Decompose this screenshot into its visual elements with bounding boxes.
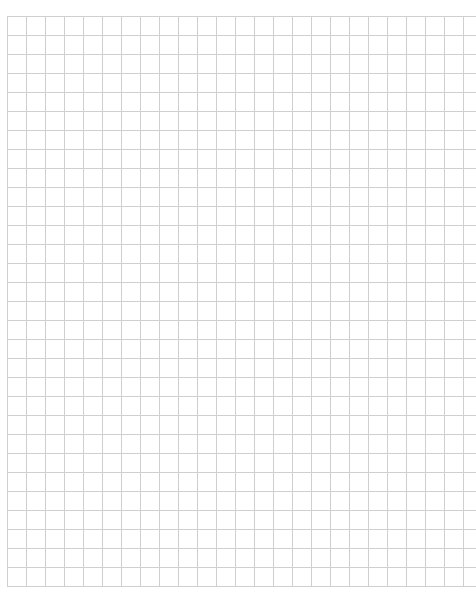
graph-paper-grid (7, 16, 476, 587)
